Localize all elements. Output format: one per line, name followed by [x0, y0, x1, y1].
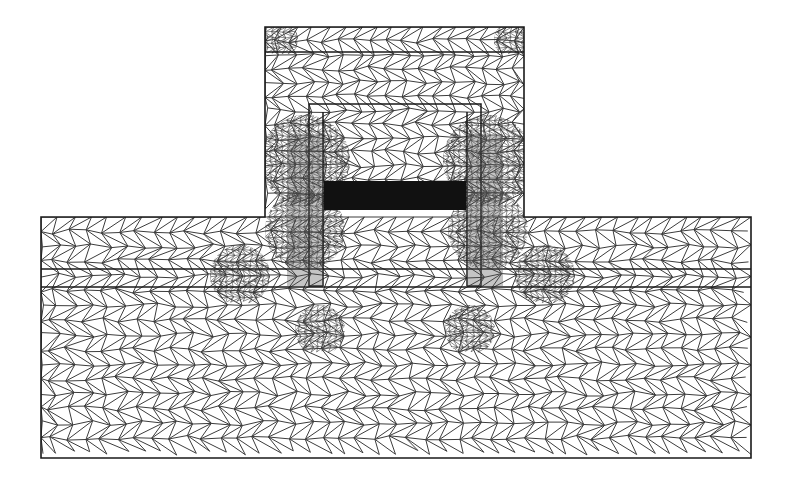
mesh-figure [0, 0, 790, 480]
electrode-bar-dense-mesh [324, 181, 466, 210]
mesh-refinement-zone [295, 305, 345, 353]
triangle-mesh [0, 0, 790, 480]
left-dense-zone [287, 134, 323, 286]
mesh-svg [0, 0, 790, 480]
right-dense-zone [467, 134, 503, 286]
